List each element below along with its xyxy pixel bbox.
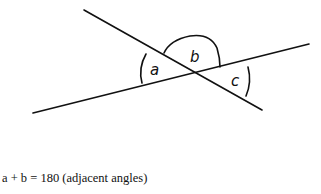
angle-label-b: b bbox=[190, 48, 200, 66]
shallow-line bbox=[33, 44, 309, 113]
angle-arc-a bbox=[141, 54, 146, 83]
proof-line-1: a + b = 180 (adjacent angles) bbox=[2, 172, 147, 184]
proof-text: a + b = 180 (adjacent angles) c + b = 18… bbox=[2, 148, 147, 194]
angle-arc-c bbox=[246, 67, 250, 96]
steep-line bbox=[84, 10, 262, 110]
intersecting-lines-diagram: a b c bbox=[0, 0, 321, 120]
angle-label-c: c bbox=[231, 72, 240, 90]
angle-label-a: a bbox=[150, 61, 159, 79]
